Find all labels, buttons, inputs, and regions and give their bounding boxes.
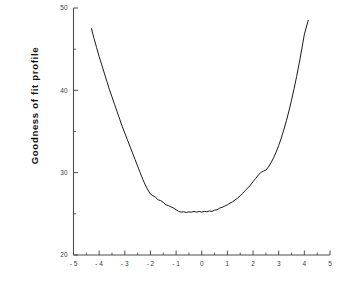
- x-axis-tick-label: 0: [200, 260, 204, 267]
- plot-area: - 5- 4- 3- 2- 101234520304050: [0, 0, 348, 291]
- x-axis-tick-label: - 4: [95, 260, 103, 267]
- x-axis-tick-label: - 5: [70, 260, 78, 267]
- y-axis-tick-label: 50: [60, 4, 68, 11]
- x-axis-tick-label: 3: [277, 260, 281, 267]
- data-series-group: [91, 20, 308, 212]
- chart-figure: Goodness of fit profile - 5- 4- 3- 2- 10…: [0, 0, 348, 291]
- y-axis-tick-label: 30: [60, 169, 68, 176]
- x-axis-tick-label: 2: [251, 260, 255, 267]
- x-axis-tick-label: - 3: [121, 260, 129, 267]
- tick-labels-group: - 5- 4- 3- 2- 101234520304050: [60, 4, 332, 267]
- x-axis-tick-label: 5: [328, 260, 332, 267]
- y-axis-tick-label: 20: [60, 251, 68, 258]
- x-axis-tick-label: - 2: [147, 260, 155, 267]
- y-axis-tick-label: 40: [60, 87, 68, 94]
- data-line: [91, 20, 308, 212]
- x-axis-tick-label: - 1: [172, 260, 180, 267]
- x-axis-tick-label: 4: [303, 260, 307, 267]
- x-axis-tick-label: 1: [226, 260, 230, 267]
- ticks-group: [74, 8, 331, 255]
- axes-group: [74, 8, 331, 255]
